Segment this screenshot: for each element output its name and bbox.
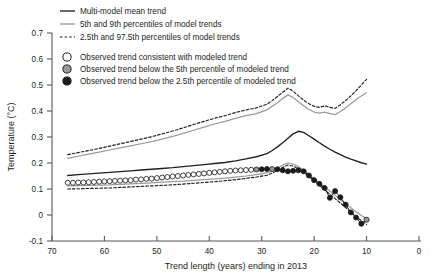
x-tick-label: 40	[205, 247, 215, 256]
y-axis-title: Temperature (°C)	[6, 102, 16, 171]
observed-trend-point	[238, 168, 243, 173]
observed-trend-point	[264, 166, 269, 171]
observed-trend-point	[196, 171, 201, 176]
x-tick-label: 70	[47, 247, 57, 256]
observed-trend-point	[181, 173, 186, 178]
series-multimodel-mean	[68, 131, 367, 175]
observed-trend-point	[97, 179, 102, 184]
observed-trend-point	[243, 168, 248, 173]
legend-label-consistent: Observed trend consistent with modeled t…	[80, 53, 247, 62]
observed-trend-point	[233, 168, 238, 173]
y-axis-ticks: -0.100.10.20.30.40.50.60.7	[29, 29, 52, 246]
observed-trend-point	[280, 168, 285, 173]
observed-trend-point	[275, 167, 280, 172]
x-tick-label: 0	[417, 247, 422, 256]
legend-marker-grey	[63, 65, 71, 73]
observed-trend-point	[107, 179, 112, 184]
observed-trend-point	[212, 170, 217, 175]
series-95th-percentile	[68, 93, 367, 159]
observed-trend-point	[86, 180, 91, 185]
series-97p5-percentile	[68, 79, 367, 154]
observed-trend-point	[133, 177, 138, 182]
observed-trend-point	[170, 174, 175, 179]
observed-trend-point	[102, 179, 107, 184]
observed-trend-point	[81, 180, 86, 185]
observed-trend-point	[312, 178, 317, 183]
series-observed-trend-line	[68, 169, 367, 224]
observed-trend-point	[359, 221, 364, 226]
y-tick-label: 0.1	[32, 185, 44, 194]
observed-trend-point	[91, 179, 96, 184]
legend-lines: Multi-model mean trend 5th and 9th perce…	[60, 7, 240, 42]
legend-label-mean: Multi-model mean trend	[80, 7, 166, 16]
observed-trend-point	[249, 167, 254, 172]
x-tick-label: 60	[100, 247, 110, 256]
legend-label-5-95: 5th and 9th percentiles of model trends	[80, 20, 222, 29]
observed-trend-point	[343, 202, 348, 207]
plot-area	[65, 79, 369, 226]
observed-trend-point	[327, 195, 332, 200]
y-tick-label: 0.7	[32, 29, 44, 38]
y-tick-label: 0.6	[32, 55, 44, 64]
observed-trend-point	[202, 171, 207, 176]
x-tick-label: 10	[362, 247, 372, 256]
observed-trend-point	[301, 169, 306, 174]
observed-trend-point	[228, 168, 233, 173]
observed-trend-point	[364, 217, 369, 222]
observed-trend-point	[128, 178, 133, 183]
observed-trend-point	[259, 167, 264, 172]
observed-trend-point	[306, 173, 311, 178]
observed-trend-point	[76, 180, 81, 185]
legend-marker-open	[63, 53, 71, 61]
observed-trend-point	[175, 174, 180, 179]
observed-trend-point	[217, 169, 222, 174]
observed-trend-point	[70, 180, 75, 185]
observed-trend-point	[223, 169, 228, 174]
observed-trend-point	[165, 175, 170, 180]
observed-trend-point	[123, 178, 128, 183]
observed-trend-point	[270, 166, 275, 171]
observed-trend-point	[65, 180, 70, 185]
observed-trend-point	[112, 178, 117, 183]
x-axis-ticks: 706050403020100	[47, 236, 421, 256]
x-tick-label: 30	[257, 247, 267, 256]
y-tick-label: -0.1	[29, 237, 44, 246]
trend-chart: Multi-model mean trend 5th and 9th perce…	[0, 0, 432, 277]
observed-trend-point	[317, 181, 322, 186]
observed-trend-point	[154, 176, 159, 181]
observed-trend-point	[338, 195, 343, 200]
observed-trend-point	[333, 189, 338, 194]
observed-trend-point	[254, 167, 259, 172]
observed-trend-point	[322, 185, 327, 190]
y-tick-label: 0.3	[32, 133, 44, 142]
observed-trend-point	[160, 175, 165, 180]
observed-trend-point	[348, 210, 353, 215]
observed-trend-point	[285, 169, 290, 174]
observed-trend-point	[149, 176, 154, 181]
series-2p5-percentile	[68, 165, 367, 224]
y-tick-label: 0.2	[32, 159, 44, 168]
observed-trend-point	[139, 177, 144, 182]
legend-marker-black	[63, 77, 71, 85]
legend-label-below-5th: Observed trend below the 5th percentile …	[80, 65, 289, 74]
observed-trend-point	[118, 178, 123, 183]
observed-trend-point	[291, 168, 296, 173]
y-tick-label: 0.4	[32, 107, 44, 116]
x-axis-title: Trend length (years) ending in 2013	[165, 261, 307, 271]
x-tick-label: 50	[152, 247, 162, 256]
x-tick-label: 20	[310, 247, 320, 256]
observed-trend-point	[296, 168, 301, 173]
observed-trend-point	[186, 172, 191, 177]
observed-trend-point	[354, 215, 359, 220]
y-tick-label: 0.5	[32, 81, 44, 90]
observed-trend-point	[191, 172, 196, 177]
legend-label-2p5-97p5: 2.5th and 97.5th percentiles of model tr…	[80, 33, 240, 42]
observed-trend-point	[207, 170, 212, 175]
series-observed-trend-markers	[65, 166, 369, 226]
legend-markers: Observed trend consistent with modeled t…	[63, 53, 296, 86]
y-tick-label: 0	[38, 211, 43, 220]
legend-label-below-2p5th: Observed trend below the 2.5th percentil…	[80, 77, 296, 86]
observed-trend-point	[144, 176, 149, 181]
